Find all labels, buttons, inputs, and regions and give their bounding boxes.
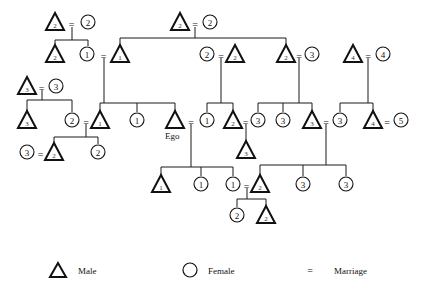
node-number: 3 xyxy=(301,180,306,190)
node-number: 2 xyxy=(235,211,240,221)
female-node: 2 xyxy=(81,15,95,29)
female-node: 3 xyxy=(333,113,347,127)
marriage-equals-icon: = xyxy=(307,265,313,276)
male-node: 2 xyxy=(251,175,269,192)
node-number: 3 xyxy=(256,116,261,126)
female-node: 3 xyxy=(49,79,63,93)
female-node: 3 xyxy=(296,177,310,191)
node-number: 1 xyxy=(118,54,122,62)
node-number: 2 xyxy=(208,18,213,28)
legend-male: Male xyxy=(50,263,97,277)
female-node: 1 xyxy=(200,113,214,127)
marriage-equals-icon: = xyxy=(365,51,371,62)
node-number: 2 xyxy=(258,184,262,192)
node-number: 3 xyxy=(281,116,286,126)
male-node: 3 xyxy=(18,111,36,128)
marriage-equals-icon: = xyxy=(323,117,329,128)
legend-marriage: = Marriage xyxy=(307,265,367,277)
marriage-equals-icon: = xyxy=(218,51,224,62)
node-number: 2 xyxy=(53,54,57,62)
node-number: 3 xyxy=(344,180,349,190)
node-number: 3 xyxy=(244,150,248,158)
female-node: 2 xyxy=(65,113,79,127)
marriage-equals-icon: = xyxy=(101,51,107,62)
marriage-equals-icon: = xyxy=(188,117,194,128)
marriage-equals-icon: = xyxy=(39,83,45,94)
node-number: 3 xyxy=(25,120,29,128)
female-node: 2 xyxy=(91,145,105,159)
node-number: 2 xyxy=(70,116,75,126)
marriage-equals-icon: = xyxy=(384,117,390,128)
male-node: 2 xyxy=(45,143,63,160)
female-node: 3 xyxy=(305,47,319,61)
male-triangle-icon xyxy=(166,111,184,128)
kinship-nodes: 222221122234433321112333345332211123322 xyxy=(18,13,408,223)
marriage-equals-icon: = xyxy=(244,181,250,192)
male-node: 3 xyxy=(18,77,36,94)
marriage-equals-icon: = xyxy=(69,19,75,30)
kinship-diagram: 222221122234433321112333345332211123322 … xyxy=(0,0,426,288)
marriage-equals-icon: = xyxy=(296,51,302,62)
node-number: 2 xyxy=(205,50,210,60)
male-node: 2 xyxy=(257,206,275,223)
marriage-equals-icon: = xyxy=(243,117,249,128)
male-node: 2 xyxy=(46,13,64,30)
marriage-signs: ============== xyxy=(38,19,391,192)
node-number: 2 xyxy=(233,54,237,62)
node-number: 2 xyxy=(52,152,56,160)
node-number: 3 xyxy=(54,82,59,92)
node-number: 3 xyxy=(338,116,343,126)
legend-marriage-label: Marriage xyxy=(334,266,367,276)
female-node: 1 xyxy=(226,177,240,191)
node-number: 2 xyxy=(264,215,268,223)
marriage-equals-icon: = xyxy=(192,19,198,30)
female-node: 2 xyxy=(203,15,217,29)
female-node: 5 xyxy=(394,113,408,127)
node-number: 4 xyxy=(381,50,386,60)
node-number: 1 xyxy=(98,120,102,128)
node-number: 3 xyxy=(310,50,315,60)
female-node: 1 xyxy=(194,177,208,191)
male-node: 2 xyxy=(171,13,189,30)
node-number: 2 xyxy=(284,54,288,62)
female-node: 1 xyxy=(80,47,94,61)
male-triangle-icon xyxy=(50,263,66,277)
node-number: 3 xyxy=(25,148,30,158)
node-number: 1 xyxy=(85,50,90,60)
node-number: 3 xyxy=(310,120,314,128)
female-node: 3 xyxy=(20,145,34,159)
female-node: 3 xyxy=(339,177,353,191)
male-node: 1 xyxy=(91,111,109,128)
male-node: 1 xyxy=(111,45,129,62)
legend-female-label: Female xyxy=(208,266,235,276)
female-node: 2 xyxy=(230,208,244,222)
female-node: 3 xyxy=(251,113,265,127)
male-node: 1 xyxy=(152,175,170,192)
legend-female: Female xyxy=(183,263,235,277)
node-number: 1 xyxy=(199,180,204,190)
male-node xyxy=(166,111,184,128)
female-node: 2 xyxy=(200,47,214,61)
node-number: 4 xyxy=(351,54,355,62)
node-number: 1 xyxy=(205,116,210,126)
node-number: 1 xyxy=(159,184,163,192)
node-number: 2 xyxy=(178,22,182,30)
male-node: 2 xyxy=(224,111,242,128)
node-number: 5 xyxy=(399,116,404,126)
marriage-equals-icon: = xyxy=(83,117,89,128)
female-circle-icon xyxy=(183,263,197,277)
legend-male-label: Male xyxy=(78,266,97,276)
male-node: 3 xyxy=(303,111,321,128)
node-number: 2 xyxy=(231,120,235,128)
male-node: 4 xyxy=(364,111,382,128)
node-number: 1 xyxy=(135,116,140,126)
node-number: 3 xyxy=(25,86,29,94)
node-number: 2 xyxy=(53,22,57,30)
node-number: 1 xyxy=(231,180,236,190)
node-number: 2 xyxy=(86,18,91,28)
node-number: 4 xyxy=(371,120,375,128)
male-node: 2 xyxy=(226,45,244,62)
male-node: 2 xyxy=(46,45,64,62)
male-node: 3 xyxy=(237,141,255,158)
female-node: 1 xyxy=(130,113,144,127)
